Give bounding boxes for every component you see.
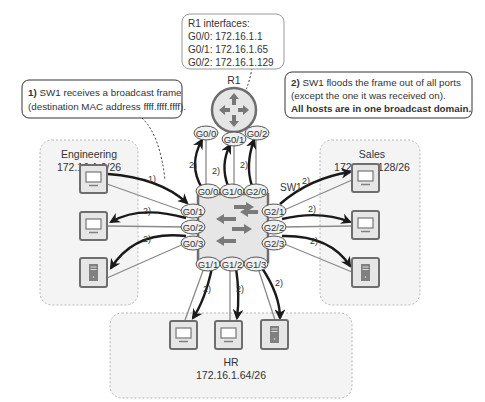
router-info-g01: G0/1: 172.16.1.65 — [188, 44, 269, 55]
engineering-server[interactable] — [80, 258, 107, 287]
svg-text:G1/1: G1/1 — [198, 259, 219, 270]
svg-text:G1/0: G1/0 — [222, 186, 243, 197]
svg-text:G2/0: G2/0 — [246, 186, 267, 197]
engineering-hosts — [80, 165, 107, 287]
switch-port-g12[interactable]: G1/2 — [220, 257, 244, 271]
router-port-g01[interactable]: G0/1 — [222, 132, 246, 146]
switch-port-g03[interactable]: G0/3 — [181, 236, 205, 250]
zone-sales-name: Sales — [359, 148, 385, 160]
svg-text:2): 2) — [212, 166, 220, 176]
router-port-g02[interactable]: G0/2 — [245, 126, 269, 140]
svg-text:2): 2) — [275, 278, 283, 288]
svg-text:2): 2) — [310, 236, 318, 246]
router-info-title: R1 interfaces: — [188, 18, 250, 29]
engineering-pc-2[interactable] — [80, 212, 107, 240]
switch-port-g20[interactable]: G2/0 — [244, 184, 268, 198]
switch-label: SW1 — [280, 182, 302, 193]
svg-text:G2/1: G2/1 — [264, 206, 285, 217]
svg-text:2): 2) — [308, 204, 316, 214]
router-port-g00[interactable]: G0/0 — [194, 126, 218, 140]
svg-text:G1/2: G1/2 — [222, 259, 243, 270]
svg-text:2): 2) — [143, 234, 151, 244]
sales-pc-2[interactable] — [352, 211, 379, 239]
svg-text:1): 1) — [148, 174, 156, 184]
svg-text:G2/3: G2/3 — [264, 238, 285, 249]
svg-text:G0/3: G0/3 — [183, 238, 204, 249]
hr-pc-1[interactable] — [170, 321, 197, 349]
switch-port-g01[interactable]: G0/1 — [181, 204, 205, 218]
callout-step1: 1) SW1 receives a broadcast frame (desti… — [22, 80, 186, 118]
svg-text:2): 2) — [240, 160, 248, 170]
zone-engineering-name: Engineering — [61, 148, 117, 160]
svg-text:2) SW1 floods the frame out of: 2) SW1 floods the frame out of all ports — [291, 77, 461, 88]
svg-text:G0/1: G0/1 — [183, 206, 204, 217]
sales-hosts — [352, 164, 379, 287]
svg-text:2): 2) — [203, 284, 211, 294]
svg-text:G0/2: G0/2 — [183, 222, 204, 233]
network-diagram: Engineering 172.16.1.0/26 Sales 172.16.1… — [0, 0, 485, 402]
svg-text:G1/3: G1/3 — [246, 259, 267, 270]
hr-server[interactable] — [261, 320, 288, 349]
hr-hosts — [170, 320, 288, 349]
svg-text:All hosts are in one broadcast: All hosts are in one broadcast domain. — [291, 103, 471, 114]
svg-text:2): 2) — [236, 284, 244, 294]
callout-step2: 2) SW1 floods the frame out of all ports… — [285, 72, 472, 118]
svg-text:G0/1: G0/1 — [224, 134, 245, 145]
router-r1[interactable]: R1 — [212, 74, 256, 132]
svg-text:(destination MAC address ffff.: (destination MAC address ffff.ffff.ffff)… — [28, 101, 186, 112]
router-label: R1 — [227, 74, 241, 86]
svg-text:1) SW1 receives a broadcast fr: 1) SW1 receives a broadcast frame — [28, 87, 182, 98]
switch-port-g22[interactable]: G2/2 — [262, 220, 286, 234]
switch-port-g11[interactable]: G1/1 — [196, 257, 220, 271]
router-info-leader — [246, 68, 252, 90]
switch-port-g02[interactable]: G0/2 — [181, 220, 205, 234]
sales-pc-1[interactable] — [352, 164, 379, 192]
switch-port-g13[interactable]: G1/3 — [244, 257, 268, 271]
router-info-box: R1 interfaces: G0/0: 172.16.1.1 G0/1: 17… — [182, 14, 284, 69]
engineering-pc-1[interactable] — [80, 165, 107, 193]
svg-text:G0/0: G0/0 — [196, 128, 217, 139]
svg-text:G0/2: G0/2 — [247, 128, 268, 139]
svg-text:2): 2) — [189, 160, 197, 170]
zone-hr-name: HR — [223, 356, 239, 368]
switch-port-g00[interactable]: G0/0 — [196, 184, 220, 198]
switch-port-g23[interactable]: G2/3 — [262, 236, 286, 250]
router-info-g00: G0/0: 172.16.1.1 — [188, 31, 263, 42]
switch-port-g21[interactable]: G2/1 — [262, 204, 286, 218]
svg-text:2): 2) — [143, 206, 151, 216]
sales-server[interactable] — [352, 258, 379, 287]
svg-text:G2/2: G2/2 — [264, 222, 285, 233]
svg-text:2): 2) — [302, 176, 310, 186]
hr-pc-2[interactable] — [215, 321, 242, 349]
router-info-g02: G0/2: 172.16.1.129 — [188, 57, 274, 68]
zone-hr-subnet: 172.16.1.64/26 — [196, 369, 266, 381]
svg-text:(except the one it was receive: (except the one it was received on). — [291, 90, 446, 101]
switch-port-g10[interactable]: G1/0 — [220, 184, 244, 198]
svg-text:G0/0: G0/0 — [198, 186, 219, 197]
callout1-leader — [142, 118, 165, 180]
